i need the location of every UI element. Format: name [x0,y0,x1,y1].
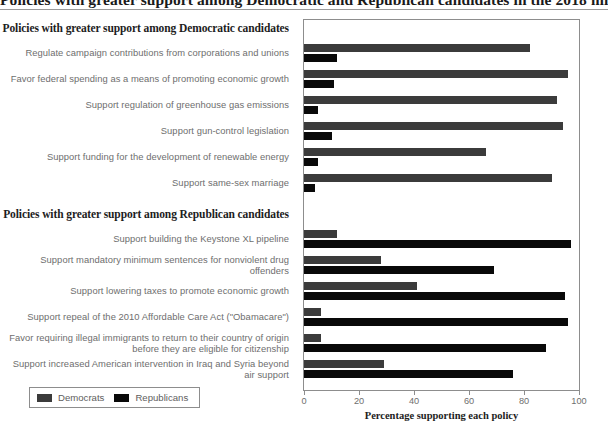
row-label: Support regulation of greenhouse gas emi… [0,99,296,110]
bar-republicans [304,292,565,300]
x-axis-tick [579,391,580,395]
bar-republicans [304,266,494,274]
chart-row: Favor requiring illegal immigrants to re… [0,330,608,356]
bar-democrats [304,308,321,316]
row-bars [303,66,580,92]
row-label: Regulate campaign contributions from cor… [0,47,296,58]
bar-democrats [304,282,417,290]
row-label: Favor federal spending as a means of pro… [0,73,296,84]
row-bars [303,40,580,66]
bar-republicans [304,158,318,166]
bar-democrats [304,230,337,238]
bar-republicans [304,370,513,378]
row-bars [303,304,580,330]
section-header-democratic: Policies with greater support among Demo… [0,19,296,40]
row-bars [303,252,580,278]
x-axis-tick-label: 100 [571,396,586,406]
bar-republicans [304,240,571,248]
row-label: Support gun-control legislation [0,125,296,136]
section-gap [0,196,608,205]
legend-swatch-democrats [37,394,52,402]
bar-republicans [304,106,318,114]
bar-republicans [304,344,546,352]
chart-row: Favor federal spending as a means of pro… [0,66,608,92]
row-bars [303,356,580,382]
bar-democrats [304,256,381,264]
row-bars [303,278,580,304]
title-divider-rule [0,9,608,10]
row-label: Support repeal of the 2010 Affordable Ca… [0,311,296,322]
row-bars [303,118,580,144]
chart-row: Support repeal of the 2010 Affordable Ca… [0,304,608,330]
x-axis-tick-label: 40 [409,396,419,406]
chart-row: Support increased American intervention … [0,356,608,382]
chart-row: Support lowering taxes to promote econom… [0,278,608,304]
row-bars [303,144,580,170]
row-bars [303,92,580,118]
x-axis-title: Percentage supporting each policy [303,410,580,421]
chart-row: Support building the Keystone XL pipelin… [0,226,608,252]
bar-republicans [304,54,337,62]
bar-democrats [304,334,321,342]
x-axis-tick [524,391,525,395]
row-bars [303,170,580,196]
row-label: Support funding for the development of r… [0,151,296,162]
chart-row: Support same-sex marriage [0,170,608,196]
chart-row: Regulate campaign contributions from cor… [0,40,608,66]
chart-row: Support mandatory minimum sentences for … [0,252,608,278]
legend-label-democrats: Democrats [58,392,104,403]
row-label: Support same-sex marriage [0,177,296,188]
bar-republicans [304,184,315,192]
x-axis-tick-label: 80 [519,396,529,406]
bar-republicans [304,318,568,326]
row-label: Support lowering taxes to promote econom… [0,285,296,296]
bar-chart-figure: Policies with greater support among Demo… [0,11,608,425]
bar-republicans [304,132,332,140]
bar-democrats [304,360,384,368]
bar-republicans [304,80,334,88]
row-bars [303,330,580,356]
x-axis-tick-label: 60 [464,396,474,406]
chart-row: Support funding for the development of r… [0,144,608,170]
chart-legend: Democrats Republicans [29,387,200,408]
x-axis-tick-label: 0 [301,396,306,406]
legend-swatch-republicans [114,394,129,402]
chart-rows-container: Policies with greater support among Demo… [0,19,608,382]
row-bars [303,226,580,252]
row-label: Favor requiring illegal immigrants to re… [0,332,296,354]
x-axis-tick [359,391,360,395]
bar-democrats [304,174,552,182]
chart-row: Support gun-control legislation [0,118,608,144]
x-axis-tick [414,391,415,395]
bar-democrats [304,122,563,130]
chart-row: Support regulation of greenhouse gas emi… [0,92,608,118]
legend-label-republicans: Republicans [135,392,188,403]
x-axis-tick [469,391,470,395]
row-label: Support increased American intervention … [0,358,296,380]
figure-title-cropped: Policies with greater support among Demo… [0,0,608,9]
x-axis-tick [304,391,305,395]
bar-democrats [304,96,557,104]
section-header-republican: Policies with greater support among Repu… [0,205,296,226]
bar-democrats [304,44,530,52]
bar-democrats [304,148,486,156]
row-label: Support mandatory minimum sentences for … [0,254,296,276]
bar-democrats [304,70,568,78]
row-label: Support building the Keystone XL pipelin… [0,233,296,244]
x-axis-tick-label: 20 [354,396,364,406]
